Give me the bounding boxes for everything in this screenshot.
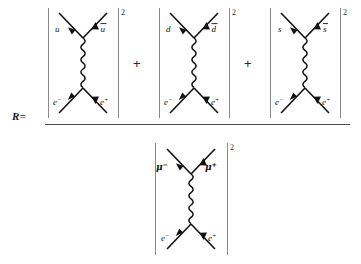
fermion-line-out-left <box>170 13 194 38</box>
svg-text:s: s <box>323 24 327 34</box>
arrow-in-left <box>68 93 75 100</box>
label-in-right: e+ <box>208 232 216 244</box>
feynman-diagram-up-quark: u u e− e+ <box>48 8 119 118</box>
fermion-line-out-left <box>281 13 305 38</box>
photon-propagator <box>189 174 193 224</box>
fermion-line-out-left <box>167 149 191 174</box>
label-in-right: e+ <box>322 96 330 108</box>
exponent-2: 2 <box>121 9 125 17</box>
exponent-2: 2 <box>232 9 236 17</box>
label-out-right: μ+ <box>205 161 217 173</box>
svg-text:u: u <box>101 24 106 34</box>
operator-plus-1: + <box>133 57 141 70</box>
label-out-left: μ− <box>156 161 168 173</box>
fermion-line-in-left <box>281 88 305 113</box>
label-out-left: d <box>166 24 171 34</box>
label-out-right: s <box>323 24 328 34</box>
label-out-right: u <box>101 24 107 34</box>
label-in-left: e− <box>53 96 61 108</box>
label-out-right: d <box>212 24 218 34</box>
label-in-right: e+ <box>100 96 108 108</box>
operator-plus-2: + <box>244 57 252 70</box>
arrow-in-left <box>179 93 186 100</box>
equation-figure: R= 2 u u <box>0 0 361 264</box>
label-out-left: s <box>278 24 282 34</box>
arrow-in-left <box>290 93 297 100</box>
equals-sign: = <box>20 110 27 122</box>
exponent-2: 2 <box>230 144 234 152</box>
label-in-right: e+ <box>211 96 219 108</box>
diagram-group-strange-quark: 2 s s e− e+ <box>270 8 341 118</box>
label-in-left: e− <box>161 232 169 244</box>
arrow-in-left <box>176 229 183 236</box>
ratio-symbol: R <box>12 110 20 122</box>
photon-propagator <box>303 38 307 88</box>
diagram-group-up-quark: 2 u u e− e+ <box>48 8 119 118</box>
label-in-left: e− <box>164 96 172 108</box>
ratio-label: R= <box>12 110 27 122</box>
exponent-2: 2 <box>343 9 347 17</box>
fraction-bar <box>45 124 350 125</box>
fermion-line-out-left <box>59 13 83 38</box>
photon-propagator <box>192 38 196 88</box>
fermion-line-in-left <box>59 88 83 113</box>
photon-propagator <box>81 38 85 88</box>
label-out-left: u <box>55 24 60 34</box>
fermion-line-in-left <box>167 224 191 249</box>
diagram-group-muon: 2 μ− μ+ e− e+ <box>155 143 228 255</box>
feynman-diagram-strange-quark: s s e− e+ <box>270 8 341 118</box>
feynman-diagram-muon: μ− μ+ e− e+ <box>155 143 228 255</box>
svg-text:d: d <box>212 24 217 34</box>
label-in-left: e− <box>275 96 283 108</box>
diagram-group-down-quark: 2 d d e− e+ <box>159 8 230 118</box>
fermion-line-in-left <box>170 88 194 113</box>
feynman-diagram-down-quark: d d e− e+ <box>159 8 230 118</box>
